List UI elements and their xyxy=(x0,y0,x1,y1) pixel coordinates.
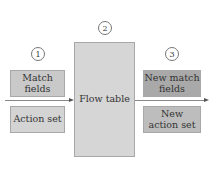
step-2-circle: 2 xyxy=(98,21,112,35)
new-match-fields-label: New match fields xyxy=(144,73,200,94)
step-1-number: 1 xyxy=(35,50,40,59)
step-3-circle: 3 xyxy=(165,47,179,61)
output-arrowhead-icon xyxy=(204,98,209,102)
flow-table-label: Flow table xyxy=(79,94,130,105)
step-2-number: 2 xyxy=(102,24,107,33)
action-set-label: Action set xyxy=(13,114,61,125)
step-3-number: 3 xyxy=(169,50,174,59)
input-arrow-line xyxy=(5,100,70,101)
new-action-set-box: New action set xyxy=(143,106,201,133)
flow-table-box: Flow table xyxy=(74,42,135,157)
match-fields-box: Match fields xyxy=(10,70,65,97)
action-set-box: Action set xyxy=(10,106,65,133)
new-action-set-label: New action set xyxy=(146,109,198,130)
new-match-fields-box: New match fields xyxy=(143,70,201,97)
match-fields-label: Match fields xyxy=(18,73,58,94)
step-1-circle: 1 xyxy=(31,47,45,61)
output-arrow-line xyxy=(135,100,205,101)
